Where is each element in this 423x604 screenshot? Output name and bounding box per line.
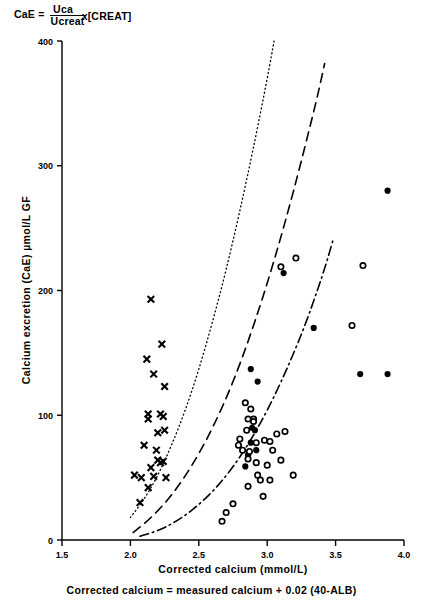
data-point-cross	[161, 383, 168, 390]
data-point-cross	[150, 371, 157, 378]
reference-curve-dash-dot	[140, 241, 333, 537]
y-tick-label: 0	[48, 536, 53, 546]
data-point-filled-circle	[357, 371, 363, 377]
y-axis-label: Calcium excretion (CaE) µmol/L GF	[20, 170, 32, 410]
data-point-filled-circle	[255, 378, 261, 384]
data-point-open-circle	[360, 263, 365, 268]
data-point-cross	[141, 442, 148, 449]
data-point-open-circle	[223, 510, 228, 515]
data-point-open-circle	[349, 323, 354, 328]
data-point-open-circle	[274, 431, 279, 436]
data-point-open-circle	[278, 457, 283, 462]
x-tick-label: 2.5	[193, 550, 206, 560]
data-point-open-circle	[267, 477, 272, 482]
data-point-filled-circle	[384, 371, 390, 377]
data-point-filled-circle	[248, 366, 254, 372]
data-point-open-circle	[260, 494, 265, 499]
data-point-open-circle	[230, 501, 235, 506]
data-point-open-circle	[290, 472, 295, 477]
y-tick-label: 300	[38, 161, 53, 171]
data-point-open-circle	[282, 429, 287, 434]
data-point-open-circle	[258, 477, 263, 482]
data-point-filled-circle	[242, 463, 248, 469]
x-tick-label: 1.5	[56, 550, 69, 560]
data-point-open-circle	[245, 456, 250, 461]
data-point-cross	[160, 413, 167, 420]
data-point-filled-circle	[281, 270, 287, 276]
y-tick-label: 100	[38, 411, 53, 421]
y-tick-label: 200	[38, 286, 53, 296]
data-point-filled-circle	[253, 447, 259, 453]
data-points-layer	[131, 188, 390, 524]
data-point-open-circle	[270, 447, 275, 452]
data-point-open-circle	[236, 442, 241, 447]
data-point-open-circle	[267, 439, 272, 444]
data-point-filled-circle	[311, 325, 317, 331]
axes-layer: 01002003004001.52.02.53.03.54.0	[38, 37, 410, 561]
data-point-open-circle	[248, 406, 253, 411]
data-point-open-circle	[240, 447, 245, 452]
x-axis-label: Corrected calcium (mmol/L)	[62, 563, 404, 575]
data-point-cross	[131, 472, 138, 479]
y-tick-label: 400	[38, 37, 53, 47]
data-point-filled-circle	[384, 188, 390, 194]
data-point-cross	[145, 416, 152, 423]
data-point-cross	[138, 474, 145, 481]
data-point-filled-circle	[252, 427, 258, 433]
scatter-plot: 01002003004001.52.02.53.03.54.0	[0, 0, 423, 604]
data-point-open-circle	[219, 519, 224, 524]
x-tick-label: 3.0	[261, 550, 274, 560]
data-point-cross	[153, 447, 160, 454]
data-point-open-circle	[278, 264, 283, 269]
data-point-open-circle	[247, 449, 252, 454]
data-point-cross	[159, 341, 166, 348]
data-point-open-circle	[254, 440, 259, 445]
data-point-open-circle	[293, 255, 298, 260]
data-point-open-circle	[245, 484, 250, 489]
x-tick-label: 4.0	[398, 550, 411, 560]
data-point-open-circle	[243, 400, 248, 405]
x-tick-label: 3.5	[329, 550, 342, 560]
data-point-cross	[163, 474, 170, 481]
data-point-open-circle	[262, 438, 267, 443]
data-point-cross	[144, 356, 151, 363]
data-point-cross	[161, 427, 168, 434]
data-point-open-circle	[245, 416, 250, 421]
figure-root: CaE = Uca Ucreat x[CREAT] 01002003004001…	[0, 0, 423, 604]
data-point-cross	[148, 464, 155, 471]
figure-footnote: Corrected calcium = measured calcium + 0…	[0, 584, 423, 596]
data-point-open-circle	[244, 428, 249, 433]
x-tick-label: 2.0	[124, 550, 137, 560]
data-point-open-circle	[251, 419, 256, 424]
data-point-open-circle	[254, 460, 259, 465]
data-point-cross	[150, 473, 157, 480]
data-point-cross	[148, 296, 155, 303]
data-point-open-circle	[237, 436, 242, 441]
data-point-cross	[154, 429, 161, 436]
data-point-open-circle	[265, 462, 270, 467]
